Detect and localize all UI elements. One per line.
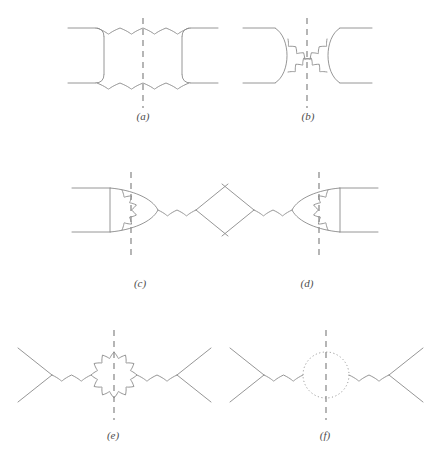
panel-a	[68, 18, 218, 108]
incoming-upper-fermion	[18, 348, 52, 375]
right-fermion-arc	[328, 28, 340, 83]
feynman-diagram-figure: (a)(b)(c)(d)(e)(f)	[0, 0, 436, 457]
upper-fermion-arc	[110, 188, 158, 210]
outgoing-upper-fermion	[177, 348, 211, 375]
outgoing-upper-fermion	[196, 184, 228, 210]
panel-label-d: (d)	[287, 277, 327, 289]
left-gluon-propagator	[264, 375, 303, 381]
incoming-lower-fermion	[222, 210, 254, 236]
incoming-upper-fermion	[222, 184, 254, 210]
vertex-correction-gluon	[122, 190, 136, 230]
s-channel-gluon	[158, 210, 196, 216]
corner-bottom-left	[95, 74, 104, 83]
upper-fermion-arc	[292, 188, 340, 210]
diagram-canvas	[0, 0, 436, 457]
panel-c	[72, 172, 228, 258]
incoming-lower-fermion	[230, 375, 264, 402]
panel-label-c: (c)	[120, 277, 160, 289]
incoming-upper-fermion	[230, 348, 264, 375]
incoming-lower-fermion	[18, 375, 52, 402]
vertex-correction-gluon	[314, 190, 328, 230]
lower-fermion-arc	[292, 210, 340, 232]
right-gluon-propagator	[349, 375, 389, 381]
outgoing-lower-fermion	[389, 375, 423, 402]
outgoing-lower-fermion	[196, 210, 228, 236]
left-fermion-arc	[275, 28, 287, 83]
panel-b	[243, 18, 372, 108]
outgoing-lower-fermion	[177, 375, 211, 402]
panel-label-b: (b)	[288, 110, 328, 122]
panel-label-a: (a)	[123, 110, 163, 122]
panel-label-e: (e)	[93, 429, 133, 441]
left-gluon-propagator	[52, 375, 91, 381]
panel-d	[222, 172, 378, 258]
right-gluon-propagator	[137, 375, 177, 381]
panel-label-f: (f)	[305, 429, 345, 441]
s-channel-gluon	[254, 210, 292, 216]
outgoing-upper-fermion	[389, 348, 423, 375]
corner-bottom-right	[182, 74, 191, 83]
panel-e	[18, 330, 211, 420]
lower-fermion-arc	[110, 210, 158, 232]
panel-f	[230, 330, 423, 420]
